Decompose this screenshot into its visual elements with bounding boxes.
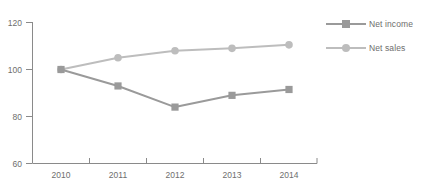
y-tick-label-80: 80: [13, 112, 23, 122]
y-tick-label-60: 60: [13, 159, 23, 169]
chart-legend: Net income Net sales: [326, 12, 427, 60]
legend-sample-net-sales: [326, 42, 366, 54]
y-tick-label-120: 120: [8, 18, 22, 28]
legend-label-net-sales: Net sales: [366, 43, 405, 53]
data-point-marker: [57, 66, 64, 73]
x-tick-label-2014: 2014: [280, 170, 299, 180]
legend-label-net-income: Net income: [366, 19, 413, 29]
data-point-marker: [285, 41, 293, 49]
series-line: [61, 70, 289, 108]
x-tick-label-2012: 2012: [166, 170, 185, 180]
data-point-marker: [228, 92, 235, 99]
x-tick-label-2011: 2011: [109, 170, 128, 180]
series-net-income: [57, 66, 292, 111]
x-tick-label-2010: 2010: [52, 170, 71, 180]
data-point-marker: [228, 45, 236, 53]
series-net-sales: [57, 41, 293, 73]
y-axis-ticks: [26, 23, 33, 164]
data-point-marker: [171, 104, 178, 111]
data-point-marker: [285, 86, 292, 93]
legend-item-net-sales[interactable]: Net sales: [326, 36, 427, 60]
legend-item-net-income[interactable]: Net income: [326, 12, 427, 36]
data-point-marker: [114, 54, 122, 62]
x-tick-label-2013: 2013: [223, 170, 242, 180]
legend-sample-net-income: [326, 18, 366, 30]
y-tick-label-100: 100: [8, 65, 22, 75]
data-point-marker: [171, 47, 179, 55]
data-point-marker: [114, 82, 121, 89]
x-axis-ticks: [90, 158, 318, 164]
series-layer: [57, 41, 293, 111]
line-chart: 120 100 80 60 2010 2011 2012 2013 2014 N…: [0, 0, 427, 195]
